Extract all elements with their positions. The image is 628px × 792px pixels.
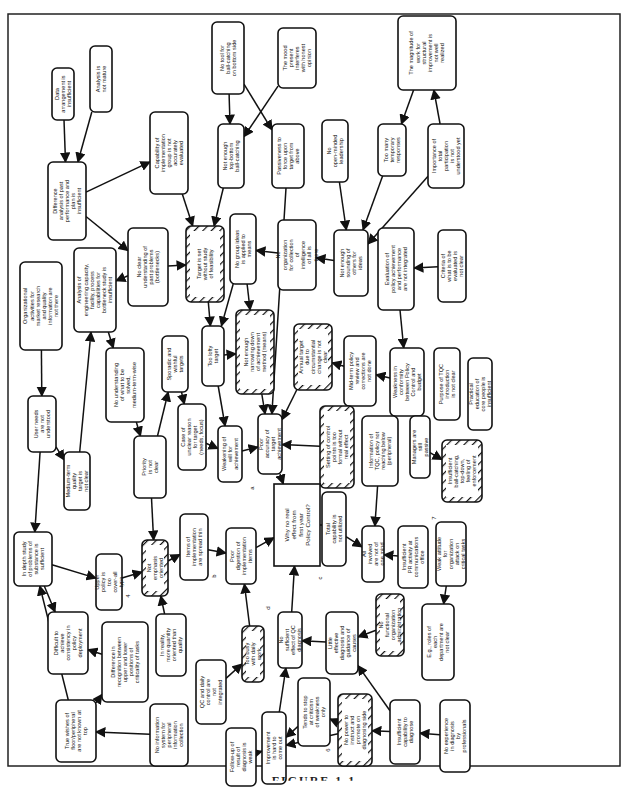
edge-sporadic-targets-to-case-unclear-reason [182, 392, 185, 404]
edge-little-effective-diagnosis-to-no-sufficient-effect [302, 641, 326, 642]
edge-no-tool-ball-catching-to-not-enough-ball-catching [229, 94, 230, 124]
node-label: Importance oftotalparticipationis notund… [431, 137, 462, 174]
node-no-understanding-solved: No understandingof what to besolved,medi… [106, 348, 144, 422]
node-medium-term-quality: Medium-termqualitytarget isnot clear [64, 452, 90, 510]
node-upper-policy: Upperpolicy istoocover-alltype [94, 554, 125, 610]
edge-poor-accuracy-to-center [280, 474, 283, 484]
node-mid-term-review: Mid-term policyreview andcorrections are… [344, 336, 376, 406]
node-insufficient-capability-diagnose: Insufficientcapability todiagnose [390, 700, 420, 764]
edge-not-emphasis-to-items-spread-thin [168, 555, 180, 562]
edge-true-wishes-to-difference-recognition [96, 694, 102, 702]
node-total-capability: Totalcapability isnot utilized [322, 492, 346, 566]
node-all-involved: Allinvolvedare not ofone mind [361, 526, 386, 582]
node-data-arrangement: Dataarrangement isinsufficient [52, 68, 74, 120]
node-user-needs: User needsare notunderstood [28, 396, 56, 452]
node-not-enough-narrowing: Not enoughnarrowing downof achievementme… [236, 310, 274, 394]
node-setting-control-points: Setting of controlpoints is tooformal wi… [320, 406, 354, 488]
node-no-functional-org: Nofunctionalorganizationadministration [376, 594, 404, 656]
edge-user-needs-to-in-depth-study [35, 452, 40, 532]
edge-weakening-will-to-poor-accuracy [242, 447, 258, 451]
node-magnitude-work: The magnitude ofwork forstructuralimprov… [398, 16, 456, 90]
edge-priority-not-clear-to-not-emphasis [152, 498, 154, 540]
edge-no-group-ideas-to-not-enough-narrowing [247, 284, 250, 310]
node-no-sufficient-effect: Nosufficienteffect of QCdiagnosis [278, 612, 303, 668]
node-label: Insufficientcapability todiagnose [396, 717, 414, 747]
node-label: Target is setwithout studyof feasibility [196, 247, 214, 281]
cause-effect-diagram: Dataarrangement isinsufficientAnalysis i… [0, 0, 628, 792]
node-analysis-engineering: Analysis ofengineering capacity,facility… [74, 248, 116, 332]
node-label: No power toinstruct andpromote ondiagnos… [343, 711, 368, 750]
node-no-experience-diagnosis: No experiencein diagnosisbyprofessionals [440, 700, 470, 772]
node-not-enough-ball-catching: Not enoughtop-bottomball-catching [218, 124, 244, 188]
node-not-enough-sounding: Not enoughsounding ofothers forideas [334, 230, 368, 296]
node-importance-participation: Importance oftotalparticipationis notund… [428, 124, 464, 188]
edge-evaluation-policy-to-weakness-conformity [400, 310, 404, 348]
edge-not-enough-narrowing-to-poor-accuracy [262, 394, 265, 414]
node-eg-roles: E.g., roles ofeachdepartment arenot clea… [422, 604, 454, 680]
node-sporadic-targets: Sporadic andwishfultargets [162, 336, 188, 392]
node-case-unclear-reason: Case ofunclear reasonfor target(needs, f… [178, 404, 206, 470]
edge-case-unclear-reason-to-weakening-will [206, 443, 218, 448]
node-no-open-minded: Noopen-mindedleadership [322, 120, 348, 182]
edge-weakness-conformity-to-mid-term-review [376, 375, 390, 378]
edge-too-busy-to-poor-digestion [244, 584, 249, 626]
node-poor-digestion: Poordigestion ofimplementationitems [226, 528, 256, 584]
node-label: Weak attitudefororganizationattack oncri… [436, 537, 467, 571]
node-org-activities: Organizationalactivities formarket resea… [20, 262, 62, 350]
edge-capability-implementation-to-target-without-study [182, 194, 192, 226]
node-practical-education: Practicaleducation ofcore people isinsuf… [468, 358, 493, 430]
edge-no-open-minded-to-not-enough-sounding [339, 182, 346, 230]
edge-managers-passive-to-insufficient-ball-catching [430, 453, 442, 460]
edge-no-tool-ball-catching-to-passiveness [244, 84, 272, 130]
edge-priority-not-clear-to-sporadic-targets [158, 392, 169, 436]
node-weak-attitude: Weak attitudefororganizationattack oncri… [436, 522, 467, 586]
edge-insufficient-pr-to-all-involved [384, 555, 398, 556]
node-insufficient-pr: InsufficientPR activity atcommunications… [398, 526, 428, 588]
diagram-page: Dataarrangement isinsufficientAnalysis i… [0, 0, 628, 792]
node-passiveness: Passiveness toforce upontarget fromabove [272, 124, 304, 188]
node-label: Not enoughnarrowing downof achievementme… [243, 332, 268, 373]
node-analysis-not-mature: Analysis isnot mature [90, 46, 112, 112]
node-label: Information ofTQC, policy notreaching be… [368, 431, 393, 470]
node-purpose-tqc: Purpose of TQCintroductionis not clear [434, 348, 460, 420]
edge-poor-digestion-to-center [256, 538, 274, 548]
edge-no-functional-org-to-little-effective-diagnosis [358, 630, 376, 637]
branch-label: d [265, 606, 271, 609]
node-managers-passive: Managers arestillpassive [410, 416, 430, 478]
edge-not-enough-sounding-to-no-org-collection [316, 258, 334, 261]
node-not-emphasis: Notemphasisoriented [142, 540, 168, 596]
edge-information-tqc-to-all-involved [375, 486, 378, 526]
node-label: Not enoughtop-bottomball-catching [222, 140, 240, 171]
edge-data-arrangement-to-difference-analysis [64, 120, 66, 162]
edge-improvement-hard-to-no-sufficient-effect [279, 668, 286, 712]
edge-no-understanding-solved-to-priority-not-clear [136, 422, 140, 436]
edge-no-information-system-to-true-wishes [96, 732, 150, 734]
branch-label: c [317, 577, 323, 580]
edge-medium-term-quality-to-analysis-engineering [80, 332, 91, 452]
edge-in-depth-study-to-upper-policy [52, 565, 96, 578]
edge-follow-up-to-improvement-hard [256, 751, 262, 753]
edge-difference-analysis-to-no-clear-understanding [86, 217, 128, 251]
edge-setting-control-points-to-poor-accuracy [282, 445, 320, 447]
node-criteria-evaluated: Criteria ofwhat is to beevaluated isnot … [438, 230, 466, 302]
node-qc-daily-control: QC and dailycontrol arenotintegrated [196, 660, 226, 724]
edge-upper-policy-to-not-emphasis [122, 572, 142, 578]
branch-label: 6 [325, 748, 331, 752]
node-difficult-consistency: Difficult toachieveconsistency inpolicyd… [48, 612, 88, 674]
branch-label: 7 [431, 516, 437, 520]
node-information-tqc: Information ofTQC, policy notreaching be… [362, 416, 398, 486]
node-label: Insufficientball-catching,top-down,feeli… [447, 454, 478, 487]
edge-in-reality-quantity-to-not-emphasis [161, 596, 165, 614]
branch-label: a [249, 486, 255, 490]
edge-magnitude-work-to-too-many-temporary [401, 90, 413, 124]
edge-too-lofty-to-weakening-will [218, 386, 225, 426]
edge-difference-analysis-to-capability-implementation [86, 162, 150, 192]
edge-target-without-study-to-too-lofty [208, 302, 210, 326]
node-difference-recognition: Difference inrecognition betweenupper an… [102, 622, 148, 702]
node-no-tool-ball-catching: No tool forball-catchingon bottom side [212, 22, 244, 94]
node-label: Too manytemporaryresponses [383, 137, 401, 163]
edge-no-clear-understanding-to-target-without-study [168, 265, 186, 266]
edge-difference-recognition-to-difficult-consistency [88, 650, 102, 655]
node-too-lofty: Too loftytarget [202, 326, 224, 386]
node-no-information-system: No informationsystem forperipheralinform… [150, 704, 188, 766]
